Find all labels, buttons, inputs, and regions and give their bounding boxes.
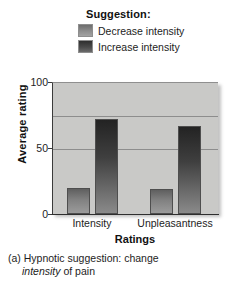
y-tick-label-100: 100	[30, 77, 48, 88]
caption-line-2: intensity of pain	[8, 265, 223, 278]
bar-unpleasantness-increase	[178, 126, 201, 214]
decrease-swatch-icon	[78, 24, 93, 37]
x-axis-baseline	[52, 214, 219, 215]
x-axis-ticks: Intensity Unpleasantness	[52, 217, 218, 233]
y-tick-label-50: 50	[36, 143, 48, 154]
chart-legend: Suggestion: Decrease intensity Increase …	[78, 8, 238, 56]
legend-item-decrease: Decrease intensity	[78, 24, 238, 37]
plot-inner	[53, 83, 218, 214]
legend-title: Suggestion:	[86, 8, 238, 20]
x-tick-label-intensity: Intensity	[52, 217, 132, 229]
caption-line-2-rest: of pain	[61, 265, 95, 277]
x-tick-label-unpleasantness: Unpleasantness	[132, 217, 218, 229]
legend-label-decrease: Decrease intensity	[98, 25, 184, 37]
increase-swatch-icon	[78, 40, 93, 53]
bar-unpleasantness-decrease	[150, 189, 173, 214]
x-axis-title: Ratings	[52, 233, 218, 245]
bar-intensity-decrease	[67, 188, 90, 214]
hypnotic-suggestion-bar-chart: Suggestion: Decrease intensity Increase …	[0, 0, 247, 284]
caption-line-1: (a) Hypnotic suggestion: change	[8, 252, 159, 264]
gridline-75	[53, 116, 218, 117]
y-axis-ticks: 100 50 0	[0, 0, 48, 284]
figure-caption: (a) Hypnotic suggestion: change intensit…	[8, 252, 223, 278]
bar-intensity-increase	[95, 119, 118, 214]
legend-label-increase: Increase intensity	[98, 41, 180, 53]
plot-area	[52, 82, 218, 214]
caption-italic-word: intensity	[22, 265, 61, 277]
legend-item-increase: Increase intensity	[78, 40, 238, 53]
